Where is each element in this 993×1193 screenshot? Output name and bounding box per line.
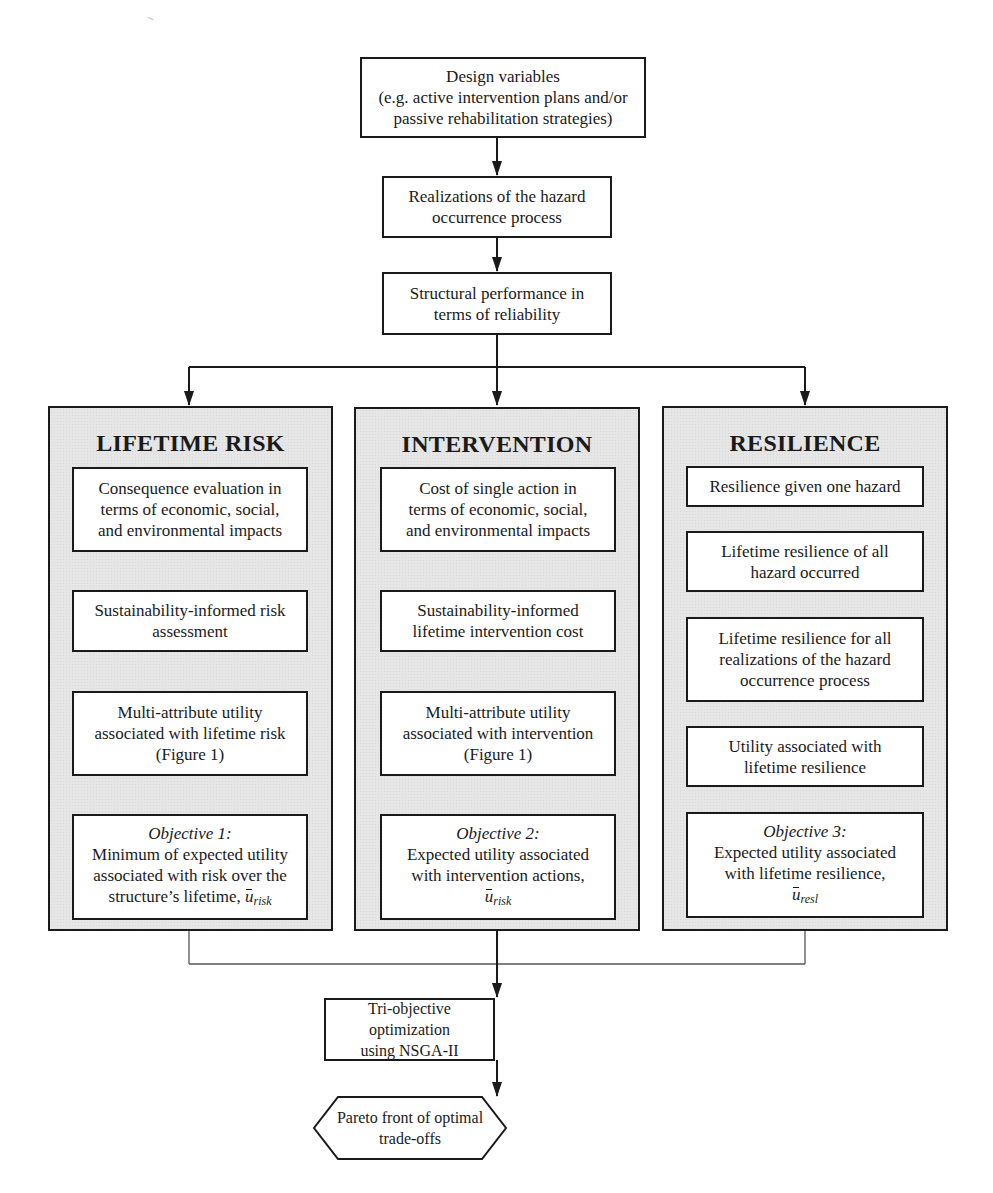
text-line: structure’s lifetime, xyxy=(109,887,241,906)
design-variables-line-1: Design variables xyxy=(446,66,560,87)
text-line: associated with risk over the xyxy=(93,865,287,886)
objective-1-box: Objective 1: Minimum of expected utility… xyxy=(72,814,308,920)
text-line: associated with lifetime risk xyxy=(94,723,285,744)
text-line: Lifetime resilience of all xyxy=(721,541,889,562)
consequence-evaluation-box: Consequence evaluation in terms of econo… xyxy=(72,467,308,552)
risk-assessment-box: Sustainability-informed risk assessment xyxy=(72,590,308,652)
text-line: assessment xyxy=(152,621,228,642)
realizations-line-2: occurrence process xyxy=(432,207,562,228)
text-line: Cost of single action in xyxy=(419,478,577,499)
text-line: Sustainability-informed xyxy=(417,600,578,621)
text-line: with lifetime resilience, xyxy=(725,863,886,884)
design-variables-line-2: (e.g. active intervention plans and/or xyxy=(378,87,627,108)
intervention-utility-box: Multi-attribute utility associated with … xyxy=(380,691,616,776)
text-line: Utility associated with xyxy=(729,736,882,757)
text-line: (Figure 1) xyxy=(464,744,532,765)
text-line: trade-offs xyxy=(379,1128,441,1149)
text-line: lifetime resilience xyxy=(744,757,866,778)
text-line: Expected utility associated xyxy=(714,842,896,863)
text-line: terms of economic, social, xyxy=(409,499,588,520)
text-line: hazard occurred xyxy=(750,562,859,583)
text-line: Pareto front of optimal xyxy=(337,1107,483,1128)
lifetime-resilience-occurred-box: Lifetime resilience of all hazard occurr… xyxy=(686,531,924,592)
risk-utility-box: Multi-attribute utility associated with … xyxy=(72,691,308,776)
objective-2-box: Objective 2: Expected utility associated… xyxy=(380,814,616,920)
realizations-line-1: Realizations of the hazard xyxy=(408,186,585,207)
text-line: Sustainability-informed risk xyxy=(94,600,285,621)
u-resl-symbol: uresl xyxy=(792,885,818,904)
text-line: with intervention actions, xyxy=(411,865,584,886)
hazard-realizations-box: Realizations of the hazard occurrence pr… xyxy=(382,176,612,238)
text-line: Multi-attribute utility xyxy=(118,702,263,723)
text-line: associated with intervention xyxy=(403,723,594,744)
text-line: and environmental impacts xyxy=(98,520,282,541)
structural-line-1: Structural performance in xyxy=(410,283,585,304)
text-line: Multi-attribute utility xyxy=(426,702,571,723)
text-line: and environmental impacts xyxy=(406,520,590,541)
text-line: terms of economic, social, xyxy=(101,499,280,520)
text-line: occurrence process xyxy=(740,670,870,691)
panel-title-intervention: INTERVENTION xyxy=(356,431,638,458)
structural-line-2: terms of reliability xyxy=(434,304,561,325)
single-action-cost-box: Cost of single action in terms of econom… xyxy=(380,467,616,552)
objective-3-label: Objective 3: xyxy=(763,821,847,842)
text-line: Resilience given one hazard xyxy=(709,476,900,497)
text-line: (Figure 1) xyxy=(156,744,224,765)
u-risk-symbol: urisk xyxy=(485,887,512,906)
text-line-with-symbol: structure’s lifetime, urisk xyxy=(109,886,272,912)
tri-objective-optimization-box: Tri-objective optimization using NSGA-II xyxy=(324,998,495,1061)
text-line: Minimum of expected utility xyxy=(92,844,288,865)
design-variables-line-3: passive rehabilitation strategies) xyxy=(393,108,612,129)
lifetime-resilience-realizations-box: Lifetime resilience for all realizations… xyxy=(686,617,924,702)
panel-title-resilience: RESILIENCE xyxy=(664,430,946,457)
resilience-utility-box: Utility associated with lifetime resilie… xyxy=(686,726,924,787)
text-line: Expected utility associated xyxy=(407,844,589,865)
symbol-line: uresl xyxy=(792,884,818,910)
text-line: using NSGA-II xyxy=(360,1040,458,1061)
objective-2-label: Objective 2: xyxy=(456,823,540,844)
text-line: Lifetime resilience for all xyxy=(718,628,891,649)
pareto-front-label: Pareto front of optimal trade-offs xyxy=(314,1097,506,1159)
design-variables-box: Design variables (e.g. active interventi… xyxy=(360,57,646,138)
u-risk-symbol: urisk xyxy=(245,887,272,906)
panel-title-lifetime-risk: LIFETIME RISK xyxy=(50,430,331,457)
objective-1-label: Objective 1: xyxy=(148,823,232,844)
text-line: lifetime intervention cost xyxy=(413,621,584,642)
text-line: Consequence evaluation in xyxy=(98,478,281,499)
symbol-line: urisk xyxy=(485,886,512,912)
objective-3-box: Objective 3: Expected utility associated… xyxy=(686,812,924,918)
text-line: Tri-objective optimization xyxy=(332,998,487,1040)
text-line: realizations of the hazard xyxy=(719,649,890,670)
lifetime-intervention-cost-box: Sustainability-informed lifetime interve… xyxy=(380,590,616,652)
resilience-one-hazard-box: Resilience given one hazard xyxy=(686,466,924,507)
structural-performance-box: Structural performance in terms of relia… xyxy=(382,272,612,335)
